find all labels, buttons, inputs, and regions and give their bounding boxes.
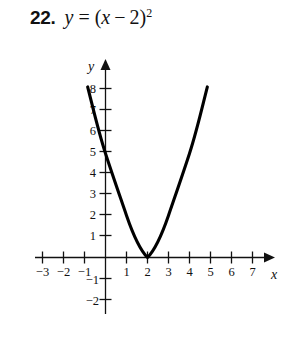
- problem-header: 22. y = ( x − 2 ) 2: [30, 6, 152, 40]
- equation-constant: 2: [130, 6, 140, 29]
- x-label-5: 5: [207, 265, 213, 279]
- y-axis-arrowhead: [101, 59, 111, 70]
- minus-operator: −: [114, 6, 125, 29]
- y-label--1: −1: [86, 273, 99, 287]
- y-label-2: 2: [90, 208, 96, 222]
- x-label-1: 1: [123, 265, 129, 279]
- equation-inner-variable: x: [101, 6, 110, 29]
- problem-number: 22.: [30, 7, 56, 29]
- equals-sign: =: [78, 6, 89, 29]
- x-label--3: −3: [36, 265, 49, 279]
- y-label-5: 5: [90, 145, 96, 159]
- x-label-4: 4: [186, 265, 193, 279]
- x-label-2: 2: [144, 265, 150, 279]
- x-axis-tick-labels: −3 −2 −1 1 2 3 4 5 6 7: [36, 265, 256, 279]
- graph-figure: −3 −2 −1 1 2 3 4 5 6 7 8 7 6 5 4 3 2 1 −…: [0, 46, 297, 337]
- equation-exponent: 2: [146, 6, 152, 21]
- x-axis-label: x: [270, 267, 278, 282]
- y-label-6: 6: [90, 124, 96, 138]
- y-label-4: 4: [90, 166, 97, 180]
- x-label-7: 7: [249, 265, 255, 279]
- close-paren: ): [140, 6, 147, 29]
- parabola-plot: −3 −2 −1 1 2 3 4 5 6 7 8 7 6 5 4 3 2 1 −…: [0, 46, 297, 337]
- y-label-1: 1: [90, 229, 96, 243]
- x-label--2: −2: [57, 265, 70, 279]
- x-label-6: 6: [228, 265, 234, 279]
- y-label--2: −2: [86, 294, 99, 308]
- y-axis-tick-labels: 8 7 6 5 4 3 2 1 −1 −2: [86, 82, 99, 308]
- y-axis-label: y: [86, 59, 95, 74]
- y-label-3: 3: [90, 187, 96, 201]
- equation-expression: y = ( x − 2 ) 2: [65, 6, 153, 29]
- x-axis-arrowhead: [264, 253, 275, 263]
- x-label-3: 3: [165, 265, 171, 279]
- equation-lhs: y: [65, 6, 74, 29]
